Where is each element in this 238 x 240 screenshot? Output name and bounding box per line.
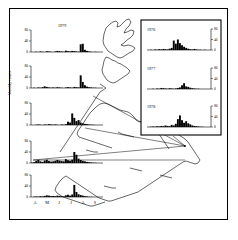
bar (82, 161, 84, 163)
bar (78, 120, 80, 125)
bar (61, 124, 63, 125)
inset-y-tick-0: 0 (214, 48, 216, 52)
bar (179, 115, 181, 127)
bar (179, 43, 181, 50)
bar (177, 88, 179, 89)
bar (73, 152, 75, 163)
inset-y-tick-40: 40 (214, 38, 218, 42)
bar (67, 51, 69, 52)
bar (37, 87, 39, 88)
y-tick-80: 80 (25, 139, 29, 143)
bar (46, 51, 48, 52)
bar (162, 88, 164, 89)
bar (33, 162, 35, 163)
month-tick-A2: A (81, 200, 84, 205)
inset-y-tick-0: 0 (214, 125, 216, 129)
inset-year-label: 1978 (147, 104, 155, 109)
bar (48, 87, 50, 88)
inset-year-label: 1976 (147, 27, 155, 32)
bar (196, 126, 198, 127)
bar (67, 87, 69, 88)
bar (56, 51, 58, 52)
bar (73, 118, 75, 125)
bar (56, 87, 58, 88)
bars-main-4 (31, 152, 96, 163)
bar (84, 196, 86, 197)
bar (165, 88, 167, 89)
bar (183, 123, 185, 127)
bar (167, 49, 169, 50)
bar (84, 50, 86, 52)
bar (46, 160, 48, 163)
inset-y-tick-40: 40 (214, 77, 218, 81)
bar (156, 126, 158, 127)
month-tick-A: A (33, 200, 36, 205)
bar (156, 88, 158, 89)
inset-box (141, 20, 221, 135)
bar (196, 49, 198, 50)
inset-y-tick-80: 80 (214, 27, 218, 31)
bar (175, 44, 177, 50)
bar (78, 159, 80, 163)
bar (69, 51, 71, 52)
bar (193, 88, 195, 89)
bar (71, 113, 73, 125)
inset-year-label: 1977 (147, 66, 155, 71)
bar (179, 87, 181, 89)
bar (177, 119, 179, 127)
bar (82, 44, 84, 52)
bar (187, 123, 189, 127)
bar (80, 123, 82, 125)
bar (35, 196, 37, 197)
bar (44, 196, 46, 197)
bar (86, 162, 88, 163)
y-tick-40: 40 (25, 75, 29, 79)
y-tick-40: 40 (25, 39, 29, 43)
y-tick-80: 80 (25, 64, 29, 68)
bar (90, 162, 92, 163)
bar (37, 124, 39, 125)
bar (44, 86, 46, 88)
bar (165, 125, 167, 127)
y-tick-0: 0 (26, 123, 28, 127)
bar (48, 161, 50, 163)
bar (69, 161, 71, 163)
bar (84, 124, 86, 125)
bar (39, 161, 41, 163)
inset-y-tick-80: 80 (214, 104, 218, 108)
inset-y-tick-0: 0 (214, 87, 216, 91)
bar (86, 51, 88, 52)
bar (67, 122, 69, 125)
bar (67, 160, 69, 163)
bar (75, 87, 77, 88)
y-tick-0: 0 (26, 86, 28, 90)
bar (187, 49, 189, 50)
bar (158, 126, 160, 127)
bar (169, 49, 171, 50)
bar (71, 195, 73, 197)
panel-main-2: 80 40 0 (25, 64, 104, 90)
bar (48, 51, 50, 52)
bar (86, 196, 88, 197)
bar (63, 196, 65, 197)
bar (52, 161, 54, 163)
bar (37, 160, 39, 163)
bar (183, 47, 185, 50)
bar (50, 196, 52, 197)
bar (154, 49, 156, 50)
bar (69, 87, 71, 88)
bar (48, 124, 50, 125)
bar (185, 48, 187, 50)
y-tick-40: 40 (25, 150, 29, 154)
bar (193, 126, 195, 127)
month-tick-S: S (94, 200, 97, 205)
x-axis-month-ticks: A M J J A S (33, 200, 96, 205)
bar (65, 195, 67, 197)
bar (65, 159, 67, 163)
bar (162, 49, 164, 50)
bar (84, 85, 86, 88)
bar (67, 195, 69, 197)
bars-main-5 (33, 185, 92, 197)
bar (42, 196, 44, 197)
bar (59, 196, 61, 197)
